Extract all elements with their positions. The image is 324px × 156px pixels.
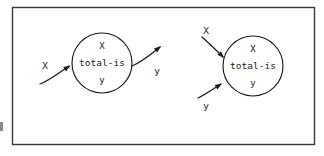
left-output-y-label: y (154, 65, 160, 76)
figure-container: X X total-is y y X (0, 0, 324, 156)
right-node-name: total-is (230, 60, 276, 71)
right-input-y-label: y (203, 100, 209, 111)
left-node-input-var: X (99, 41, 105, 51)
right-input-x-label: X (203, 25, 209, 36)
right-input-x-edge: X (202, 25, 226, 60)
left-input-x-label: X (42, 60, 48, 71)
right-input-y-arrowhead (215, 81, 224, 89)
scan-artifact (0, 122, 3, 131)
right-node-output-var: y (250, 78, 256, 88)
right-node-group: X y X total-is y (198, 25, 283, 111)
left-node-output-var: y (99, 75, 105, 85)
right-node-input-var: X (250, 44, 256, 54)
right-input-y-edge: y (198, 81, 223, 110)
left-node-group: X X total-is y y (40, 33, 163, 93)
left-input-x-arrowhead (63, 63, 72, 71)
left-output-y-edge: y (132, 44, 163, 75)
left-node-name: total-is (79, 57, 125, 68)
left-input-x-edge: X (40, 60, 72, 85)
process-flow-diagram: X X total-is y y X (0, 0, 324, 156)
